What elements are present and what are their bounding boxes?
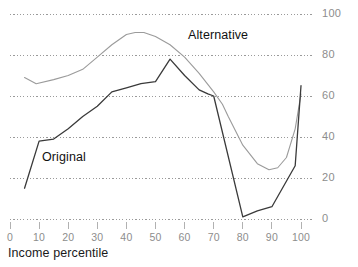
y-tick-label-60: 60 xyxy=(322,90,335,101)
x-tick-label-80: 80 xyxy=(230,232,256,243)
x-axis-title: Income percentile xyxy=(8,246,108,260)
y-tick-label-100: 100 xyxy=(322,8,341,19)
series-label-alternative: Alternative xyxy=(188,28,248,42)
y-tick-label-0: 0 xyxy=(322,213,328,224)
x-tick-label-70: 70 xyxy=(201,232,227,243)
series-line-original xyxy=(25,59,301,217)
chart-plot-area xyxy=(0,0,358,267)
gridline-group xyxy=(10,14,312,219)
x-tick-label-50: 50 xyxy=(143,232,169,243)
x-tick-label-30: 30 xyxy=(84,232,110,243)
x-tick-marks xyxy=(10,222,301,229)
x-tick-label-20: 20 xyxy=(55,232,81,243)
series-label-original: Original xyxy=(42,150,86,164)
series-line-group xyxy=(25,32,301,217)
y-tick-label-80: 80 xyxy=(322,49,335,60)
x-tick-label-0: 0 xyxy=(0,232,23,243)
x-tick-label-100: 100 xyxy=(288,232,314,243)
x-tick-label-90: 90 xyxy=(259,232,285,243)
y-tick-label-40: 40 xyxy=(322,131,335,142)
x-tick-label-10: 10 xyxy=(26,232,52,243)
x-tick-label-40: 40 xyxy=(113,232,139,243)
x-tick-label-60: 60 xyxy=(172,232,198,243)
y-tick-label-20: 20 xyxy=(322,172,335,183)
chart-container: 020406080100 0102030405060708090100 Inco… xyxy=(0,0,358,267)
